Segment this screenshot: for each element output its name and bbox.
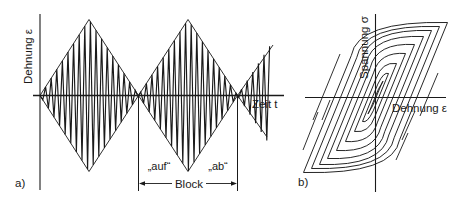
block-label: Block <box>175 178 203 190</box>
time-axis-label: Zeit t <box>252 98 278 110</box>
strain-axis-label-b: Dehnung ε <box>392 102 447 114</box>
arrowhead-right-icon <box>231 181 237 185</box>
stress-axis-label: Spannung σ <box>358 16 370 79</box>
panel-b-stress-strain-plot: Spannung σ Dehnung ε b) <box>298 14 448 192</box>
arrowhead-left-icon <box>139 181 145 185</box>
panel-a-strain-time-plot: Dehnung ε Zeit t Block „auf“ „ab“ a) <box>15 14 284 191</box>
panel-a-label: a) <box>15 177 25 189</box>
strain-axis-label: Dehnung ε <box>22 29 34 84</box>
figure: Dehnung ε Zeit t Block „auf“ „ab“ a) Spa… <box>0 0 472 203</box>
panel-b-label: b) <box>298 176 308 188</box>
ascending-label: „auf“ <box>148 160 171 172</box>
descending-label: „ab“ <box>208 160 228 172</box>
